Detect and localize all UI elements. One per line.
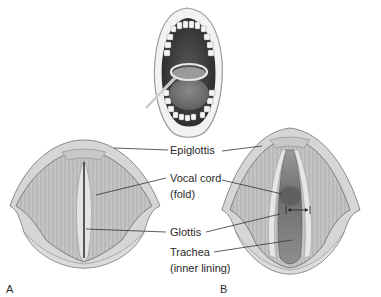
larynx-open-view <box>222 128 360 274</box>
mouth-inset <box>146 8 222 137</box>
label-vocal-cord: Vocal cord <box>170 172 221 185</box>
label-glottis: Glottis <box>170 226 201 239</box>
label-trachea-inner-lining: (inner lining) <box>170 262 231 275</box>
larynx-diagram: Epiglottis Vocal cord (fold) Glottis Tra… <box>0 0 381 297</box>
larynx-closed-view <box>10 140 160 268</box>
label-vocal-cord-fold: (fold) <box>170 188 195 201</box>
panel-label-a: A <box>6 283 13 295</box>
label-trachea: Trachea <box>170 246 210 259</box>
panel-label-b: B <box>220 283 227 295</box>
label-epiglottis: Epiglottis <box>170 144 215 157</box>
